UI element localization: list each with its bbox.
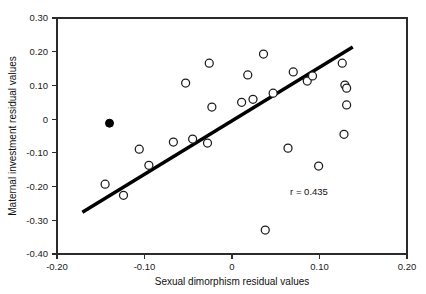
x-axis-tick-label: 0 xyxy=(229,261,234,272)
data-point-open xyxy=(135,145,143,153)
data-point-open xyxy=(238,98,246,106)
y-axis-tick-label: 0.30 xyxy=(30,12,49,23)
data-point-open xyxy=(204,139,212,147)
y-axis-tick-label: -0.30 xyxy=(26,215,48,226)
plot-canvas: 0.300.200.100-0.10-0.20-0.30-0.40-0.20-0… xyxy=(0,0,426,294)
data-point-open xyxy=(169,138,177,146)
x-axis-title: Sexual dimorphism residual values xyxy=(155,276,310,287)
data-point-open xyxy=(340,130,348,138)
data-point-open xyxy=(289,68,297,76)
x-axis-tick-label: -0.20 xyxy=(46,261,68,272)
data-point-open xyxy=(101,180,109,188)
y-axis-title: Maternal investment residual values xyxy=(7,56,18,216)
correlation-annotation: r = 0.435 xyxy=(290,186,328,197)
y-axis-tick-label: 0.20 xyxy=(30,46,49,57)
data-point-open xyxy=(260,50,268,58)
y-axis-tick-label: -0.10 xyxy=(26,147,48,158)
data-point-filled xyxy=(106,119,114,127)
plot-frame xyxy=(57,18,407,254)
data-point-open xyxy=(189,135,197,143)
data-point-open xyxy=(120,191,128,199)
x-axis-tick-label: 0.20 xyxy=(398,261,417,272)
data-point-open xyxy=(205,59,213,67)
data-point-open xyxy=(261,226,269,234)
y-axis-tick-label: 0.10 xyxy=(30,80,49,91)
scatter-plot-figure: 0.300.200.100-0.10-0.20-0.30-0.40-0.20-0… xyxy=(0,0,426,294)
x-axis-tick-label: -0.10 xyxy=(134,261,156,272)
data-point-open xyxy=(315,162,323,170)
y-axis-tick-label: 0 xyxy=(43,114,48,125)
data-point-open xyxy=(145,161,153,169)
data-point-open xyxy=(284,144,292,152)
data-point-open xyxy=(182,79,190,87)
y-axis-tick-label: -0.40 xyxy=(26,248,48,259)
data-point-open xyxy=(343,84,351,92)
data-point-open xyxy=(343,101,351,109)
data-point-open xyxy=(269,89,277,97)
data-point-open xyxy=(244,71,252,79)
data-point-open xyxy=(249,95,257,103)
data-point-open xyxy=(338,59,346,67)
x-axis-tick-label: 0.10 xyxy=(310,261,329,272)
data-point-open xyxy=(208,103,216,111)
y-axis-tick-label: -0.20 xyxy=(26,181,48,192)
data-point-open xyxy=(309,72,317,80)
